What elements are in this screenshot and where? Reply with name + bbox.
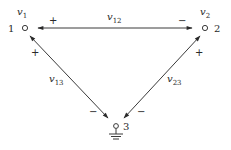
node-3-terminal [114, 124, 119, 129]
node-1-terminal [22, 25, 27, 30]
branch-v13-minus: − [89, 106, 97, 117]
branch-v23-minus: − [137, 106, 145, 117]
branch-v13-plus: + [31, 47, 39, 58]
circuit-diagram: 1 v1 2 v2 3 + − v12 + − [0, 0, 231, 150]
node-1-label: 1 [8, 23, 14, 34]
branch-v23-plus: + [195, 47, 203, 58]
branch-v13: + − v13 [30, 36, 108, 118]
node-2-potential: v2 [200, 6, 210, 20]
branch-v13-label: v13 [49, 73, 64, 87]
branch-v23-arrow [124, 36, 200, 118]
node-1-potential: v1 [17, 6, 27, 20]
branch-v23: + − v23 [124, 36, 203, 118]
ground-icon [109, 129, 123, 140]
node-3: 3 [109, 121, 129, 139]
node-2-label: 2 [214, 23, 220, 34]
node-3-label: 3 [123, 121, 129, 132]
node-1: 1 v1 [8, 6, 28, 34]
branch-v12-plus: + [49, 15, 57, 26]
node-2-terminal [202, 25, 207, 30]
node-2: 2 v2 [200, 6, 220, 34]
branch-v23-label: v23 [167, 73, 182, 87]
branch-v12-minus: − [178, 15, 186, 26]
branch-v12: + − v12 [38, 11, 192, 28]
branch-v12-label: v12 [107, 11, 122, 25]
